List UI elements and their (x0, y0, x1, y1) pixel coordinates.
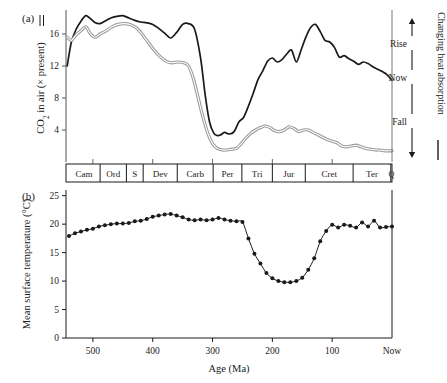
panel-a-y-tick-label: 16 (50, 29, 60, 39)
panel-b-x-tick-label: 100 (325, 346, 340, 356)
temperature-data-point (163, 212, 167, 216)
co2-curve-grey-outer (67, 24, 392, 151)
arrow-down-icon (409, 152, 415, 158)
period-label-jur: Jur (283, 169, 294, 179)
panel-b-y-tick-label: 15 (50, 248, 60, 258)
panel-b-y-tick-label: 10 (50, 276, 60, 286)
temperature-data-point (85, 228, 89, 232)
period-label-q: Q (389, 170, 395, 179)
temperature-data-point (97, 224, 101, 228)
temperature-data-point (270, 276, 274, 280)
panel-b-y-tick-label: 25 (50, 191, 60, 201)
panel-b-y-tick-label: 20 (50, 219, 60, 229)
temperature-data-point (354, 226, 358, 230)
panel-b-x-tick-label: 200 (265, 346, 280, 356)
side-label-fall: Fall (392, 117, 407, 127)
panel-b-y-tick-label: 0 (54, 333, 59, 343)
temperature-data-point (306, 268, 310, 272)
temperature-data-point (181, 215, 185, 219)
panel-b-y-axis-label: Mean surface temperature (°C) (21, 198, 33, 329)
temperature-data-point (133, 219, 137, 223)
temperature-data-point (79, 230, 83, 234)
temperature-data-point (378, 226, 382, 230)
temperature-data-point (205, 218, 209, 222)
panel-a-tag: (a) (22, 12, 35, 25)
period-label-ter: Ter (366, 169, 378, 179)
temperature-data-point (67, 234, 71, 238)
period-label-dev: Dev (153, 169, 168, 179)
temperature-data-point (121, 222, 125, 226)
temperature-data-point (139, 219, 143, 223)
temperature-data-point (229, 219, 233, 223)
svg-text:CO2 in air (× present): CO2 in air (× present) (35, 42, 51, 134)
temperature-data-point (187, 218, 191, 222)
temperature-data-point (127, 221, 131, 225)
co2-curve-grey-inner (67, 24, 392, 151)
period-label-cam: Cam (75, 169, 92, 179)
svg-text:Changing heat absorption: Changing heat absorption (436, 12, 447, 115)
temperature-data-point (294, 279, 298, 283)
temperature-data-point (223, 218, 227, 222)
figure-container: (a)(b)481216CO2 in air (× present)RiseNo… (0, 0, 447, 383)
temperature-data-point (384, 225, 388, 229)
period-label-ord: Ord (106, 169, 120, 179)
side-label-rise: Rise (390, 39, 407, 49)
temperature-data-point (348, 224, 352, 228)
temperature-data-point (372, 219, 376, 223)
temperature-data-point (240, 220, 244, 224)
temperature-data-point (246, 236, 250, 240)
changing-heat-absorption-label: Changing heat absorption (436, 12, 447, 115)
temperature-data-point (312, 256, 316, 260)
temperature-data-point (360, 220, 364, 224)
temperature-data-point (336, 226, 340, 230)
temperature-data-point (234, 219, 238, 223)
temperature-data-point (169, 212, 173, 216)
panel-a-y-tick-label: 12 (50, 61, 60, 71)
temperature-data-point (342, 223, 346, 227)
temperature-data-point (217, 216, 221, 220)
svg-text:Mean surface temperature (°C): Mean surface temperature (°C) (21, 198, 33, 329)
temperature-data-point (318, 239, 322, 243)
panel-b-x-tick-label: 300 (205, 346, 220, 356)
period-label-per: Per (222, 169, 234, 179)
temperature-data-point (193, 218, 197, 222)
period-label-tri: Tri (252, 169, 263, 179)
period-label-cret: Cret (321, 169, 337, 179)
panel-b-y-tick-label: 5 (54, 305, 59, 315)
temperature-data-point (264, 271, 268, 275)
temperature-data-point (103, 223, 107, 227)
period-label-carb: Carb (186, 169, 204, 179)
temperature-data-point (258, 261, 262, 265)
temperature-data-point (91, 227, 95, 231)
temperature-data-point (276, 279, 280, 283)
temperature-data-point (157, 214, 161, 218)
geological-co2-temperature-figure: (a)(b)481216CO2 in air (× present)RiseNo… (0, 0, 447, 383)
arrow-up-icon (409, 18, 415, 24)
panel-a-y-tick-label: 4 (54, 125, 59, 135)
temperature-data-point (109, 222, 113, 226)
temperature-data-point (330, 223, 334, 227)
temperature-data-point (115, 222, 119, 226)
temperature-data-point (211, 218, 215, 222)
temperature-data-point (300, 276, 304, 280)
temperature-data-point (199, 218, 203, 222)
temperature-data-point (145, 217, 149, 221)
temperature-data-point (366, 224, 370, 228)
temperature-data-point (73, 231, 77, 235)
panel-a-y-axis-label: CO2 in air (× present) (35, 42, 51, 134)
temperature-data-point (151, 215, 155, 219)
panel-a-y-tick-label: 8 (54, 93, 59, 103)
panel-b-x-tick-label: 400 (146, 346, 161, 356)
side-label-now: Now (389, 73, 408, 83)
co2-curve-black (67, 16, 392, 136)
temperature-data-point (324, 229, 328, 233)
period-label-s: S (132, 169, 137, 179)
temperature-data-point (390, 224, 394, 228)
x-axis-label: Age (Ma) (208, 363, 250, 375)
panel-b-x-tick-label: 500 (86, 346, 101, 356)
temperature-data-point (288, 280, 292, 284)
temperature-data-point (175, 214, 179, 218)
temperature-data-point (282, 280, 286, 284)
temperature-data-point (252, 252, 256, 256)
panel-b-x-tick-label: Now (383, 346, 402, 356)
